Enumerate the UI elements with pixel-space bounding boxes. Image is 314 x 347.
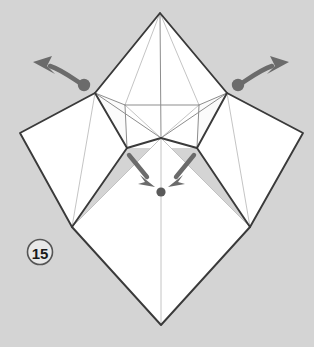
step-number-label: 15 <box>32 245 49 262</box>
center-target-dot <box>156 187 165 196</box>
left-unfold-arrow-shaft <box>50 66 83 85</box>
right-unfold-arrow <box>232 56 289 91</box>
step-number-badge: 15 <box>28 240 53 265</box>
right-unfold-arrow-dot <box>232 79 244 91</box>
origami-figure: 15 <box>0 0 314 347</box>
paper-faces <box>20 13 303 325</box>
face-inner-panel <box>125 105 199 148</box>
left-unfold-arrow <box>33 56 90 91</box>
origami-diagram: 15 <box>0 0 314 347</box>
left-unfold-arrow-dot <box>78 79 90 91</box>
right-unfold-arrow-shaft <box>239 66 272 85</box>
